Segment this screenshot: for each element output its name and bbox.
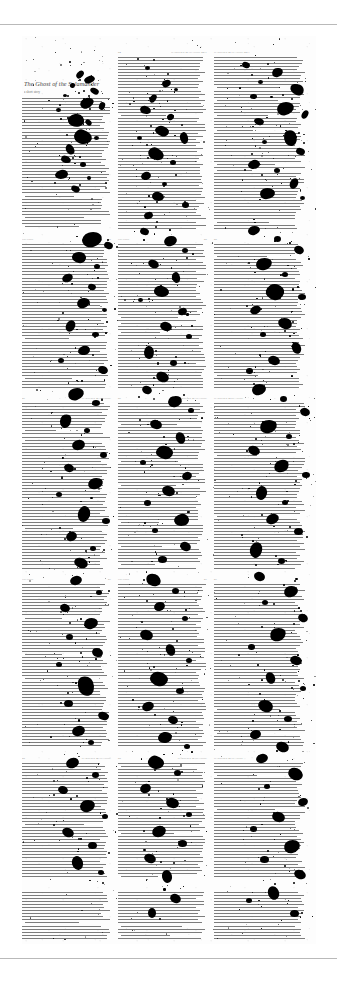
text-line (22, 778, 107, 779)
text-line (22, 326, 107, 327)
text-line (214, 335, 299, 336)
text-line (22, 870, 100, 871)
text-line (118, 381, 203, 382)
text-line (214, 491, 299, 492)
text-line (118, 384, 203, 385)
text-line (214, 139, 300, 140)
text-line (118, 458, 198, 459)
text-line (22, 926, 101, 927)
text-line (118, 72, 205, 73)
text-line (214, 932, 300, 933)
text-line (22, 278, 109, 279)
text-line (22, 244, 106, 245)
text-line (118, 250, 204, 251)
top-rule (0, 24, 337, 25)
text-line (22, 898, 107, 899)
text-line (22, 706, 103, 707)
text-line (22, 727, 103, 728)
text-line (214, 854, 298, 855)
text-line (214, 926, 295, 927)
text-line (214, 97, 300, 98)
column-left: The Ghost of the Salamandera short story (22, 36, 111, 234)
text-line (22, 593, 109, 594)
text-line (118, 501, 198, 502)
text-line (22, 372, 107, 373)
text-line (118, 916, 205, 917)
text-line (22, 584, 105, 585)
text-line (214, 910, 304, 911)
text-line (22, 929, 109, 930)
text-line (118, 369, 204, 370)
text-line (214, 369, 300, 370)
text-line (118, 351, 201, 352)
text-line (214, 624, 300, 625)
text-line (214, 605, 298, 606)
text-line (214, 621, 300, 622)
text-line (118, 769, 197, 770)
text-line (214, 715, 296, 716)
text-line (22, 919, 110, 920)
text-line (214, 271, 299, 272)
text-block (214, 892, 306, 941)
text-line (22, 605, 109, 606)
text-line (22, 174, 109, 175)
text-line (118, 259, 196, 260)
text-line (118, 736, 202, 737)
running-head: 24HARPER'S MAGAZINE 2011 (118, 50, 207, 55)
text-line (22, 718, 106, 719)
text-line (214, 215, 295, 216)
text-line (118, 651, 205, 652)
text-line (118, 648, 205, 649)
text-line (214, 342, 299, 343)
text-line (22, 608, 102, 609)
running-head-right: 25 (204, 238, 207, 241)
text-line (118, 712, 202, 713)
text-line (22, 437, 110, 438)
text-block (118, 892, 207, 941)
text-line (118, 688, 205, 689)
text-line (118, 215, 201, 216)
text-line (118, 326, 203, 327)
text-line (214, 66, 299, 67)
text-line (22, 645, 103, 646)
text-line (118, 440, 205, 441)
text-line (118, 293, 200, 294)
page-section-2: FICTION25FICTION2525 (22, 235, 316, 393)
text-line (118, 815, 205, 816)
text-line (217, 222, 269, 223)
text-line (214, 864, 298, 865)
text-line (25, 217, 84, 218)
article-headline: The Ghost of the Salamander (24, 80, 110, 87)
text-line (214, 84, 298, 85)
text-line (214, 827, 296, 828)
text-line (22, 630, 102, 631)
text-line (118, 155, 203, 156)
text-line (118, 800, 199, 801)
text-line (118, 552, 201, 553)
text-line (214, 290, 302, 291)
text-line (118, 342, 203, 343)
text-line (118, 473, 199, 474)
text-line (118, 320, 196, 321)
text-line (22, 375, 108, 376)
text-line (22, 932, 110, 933)
text-line (22, 311, 102, 312)
text-line (214, 161, 301, 162)
text-line (118, 378, 203, 379)
text-line (118, 197, 205, 198)
text-line (118, 608, 203, 609)
text-line (214, 519, 297, 520)
text-line (22, 274, 108, 275)
text-line (214, 191, 298, 192)
text-line (214, 94, 304, 95)
text-line (214, 482, 300, 483)
running-head: FICTION27 (118, 577, 207, 582)
text-line (214, 284, 299, 285)
text-line (118, 593, 198, 594)
text-line (118, 348, 203, 349)
text-line (214, 787, 297, 788)
text-line (22, 345, 106, 346)
text-line (22, 700, 106, 701)
text-line (22, 916, 103, 917)
text-line (214, 700, 295, 701)
